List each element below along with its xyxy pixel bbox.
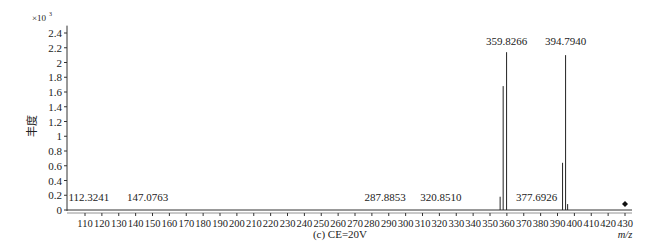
y-tick-label: 0.4 (48, 175, 62, 187)
x-tick-label: 300 (398, 218, 414, 229)
diamond-marker-icon (622, 201, 628, 207)
x-tick-label: 350 (482, 218, 498, 229)
x-tick-label: 180 (195, 218, 211, 229)
peak-label: 320.8510 (420, 191, 462, 203)
y-tick-label: 0.2 (48, 189, 62, 201)
x-tick-label: 400 (567, 218, 583, 229)
peak-label: 359.8266 (486, 35, 528, 47)
x-tick-label: 140 (128, 218, 144, 229)
x-tick-label: 210 (246, 218, 262, 229)
y-tick-label: 0.6 (48, 160, 62, 172)
x-tick-label: 320 (432, 218, 448, 229)
x-tick-label: 230 (280, 218, 296, 229)
y-tick-label: 1.6 (48, 86, 62, 98)
peak-label: 287.8853 (365, 191, 407, 203)
x-tick-label: 340 (465, 218, 481, 229)
y-axis-label: 丰度 (25, 115, 38, 137)
x-tick-label: 160 (162, 218, 178, 229)
mass-spectrum-chart: 00.20.40.60.811.21.41.61.822.22.4×103丰度1… (0, 0, 664, 242)
x-tick-label: 390 (550, 218, 566, 229)
peak-label: 394.7940 (545, 35, 587, 47)
y-tick-label: 1 (57, 130, 63, 142)
x-tick-label: 120 (94, 218, 110, 229)
y-multiplier-exponent: 3 (49, 11, 52, 17)
x-tick-label: 290 (381, 218, 397, 229)
chart-caption: (c) CE=20V (313, 228, 367, 241)
x-tick-label: 370 (516, 218, 532, 229)
x-tick-label: 430 (617, 218, 633, 229)
peak-label: 147.0763 (127, 191, 169, 203)
x-tick-label: 130 (111, 218, 127, 229)
peak-label: 377.6926 (516, 191, 558, 203)
y-tick-label: 1.8 (48, 71, 62, 83)
peak-label: 112.3241 (69, 191, 110, 203)
x-tick-label: 220 (263, 218, 279, 229)
y-tick-label: 1.2 (48, 116, 62, 128)
x-tick-label: 150 (145, 218, 161, 229)
x-tick-label: 410 (583, 218, 599, 229)
y-tick-label: 0 (57, 204, 63, 216)
y-tick-label: 2.2 (48, 42, 62, 54)
x-tick-label: 360 (499, 218, 515, 229)
x-tick-label: 190 (212, 218, 228, 229)
x-tick-label: 200 (229, 218, 245, 229)
x-tick-label: 310 (415, 218, 431, 229)
x-tick-label: 240 (297, 218, 313, 229)
x-tick-label: 330 (448, 218, 464, 229)
y-tick-label: 2 (57, 57, 63, 69)
y-tick-label: 0.8 (48, 145, 62, 157)
x-tick-label: 170 (178, 218, 194, 229)
y-tick-label: 2.4 (48, 27, 62, 39)
y-tick-label: 1.4 (48, 101, 62, 113)
x-tick-label: 420 (600, 218, 616, 229)
x-axis-label: m/z (618, 229, 633, 240)
y-multiplier-label: ×10 (32, 13, 47, 23)
x-tick-label: 380 (533, 218, 549, 229)
x-tick-label: 110 (77, 218, 92, 229)
